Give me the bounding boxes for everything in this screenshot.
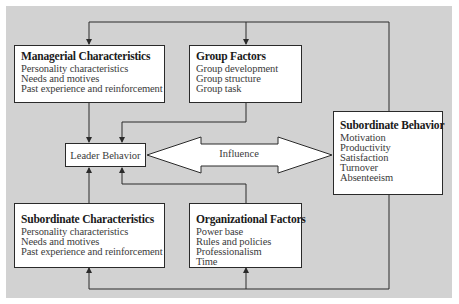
managerial-characteristics-box: Managerial Characteristics Personality c… [14, 45, 165, 103]
organizational-factors-box: Organizational Factors Power base Rules … [189, 203, 302, 268]
group-item: Group task [196, 84, 295, 94]
subordinate-behavior-title: Subordinate Behavior [340, 118, 436, 132]
subordinate-behavior-box: Subordinate Behavior Motivation Producti… [333, 111, 443, 195]
subordinate-behavior-item: Absenteeism [340, 173, 436, 183]
managerial-title: Managerial Characteristics [21, 49, 158, 63]
subordinate-chars-title: Subordinate Characteristics [21, 212, 158, 226]
subordinate-characteristics-box: Subordinate Characteristics Personality … [14, 203, 165, 268]
leader-behavior-box: Leader Behavior [65, 143, 146, 167]
group-title: Group Factors [196, 49, 295, 63]
group-factors-box: Group Factors Group development Group st… [189, 45, 302, 103]
subordinate-chars-item: Past experience and reinforcement [21, 247, 158, 257]
influence-label: Influence [200, 148, 278, 159]
managerial-item: Past experience and reinforcement [21, 84, 158, 94]
organizational-title: Organizational Factors [196, 212, 295, 226]
organizational-item: Time [196, 257, 295, 267]
